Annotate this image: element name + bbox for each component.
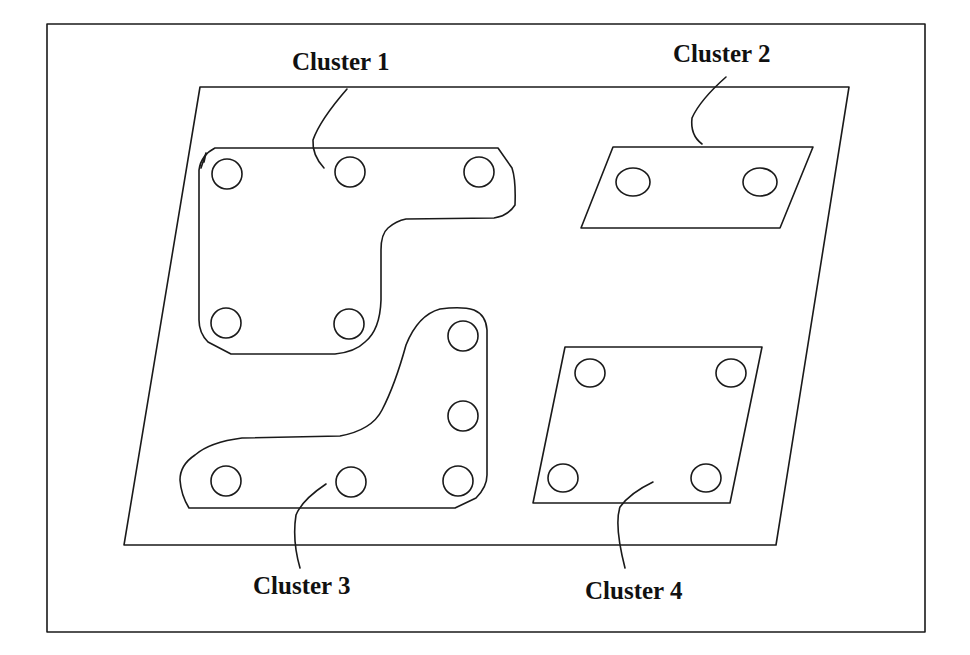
cluster-4-label: Cluster 4 [585,577,683,604]
hole [211,466,241,496]
cluster-1-holes [211,157,494,339]
hole [616,168,650,196]
hole [464,157,494,187]
hole [548,464,578,492]
hole [448,401,478,431]
hole [212,159,242,189]
hole [743,168,777,196]
cluster-4-holes [548,359,746,492]
hole [448,321,478,351]
cluster-3-leader [295,484,326,568]
hole [716,359,746,387]
hole [335,157,365,187]
cluster-2-holes [616,168,777,196]
cluster-3-label: Cluster 3 [253,572,350,599]
cluster-2-label: Cluster 2 [673,40,770,67]
cluster-3-holes [211,321,478,497]
hole [691,464,721,492]
cluster-1-label: Cluster 1 [292,48,389,75]
hole [575,359,605,387]
cluster-1-leader [313,89,347,168]
cluster-4-leader [618,482,653,568]
hole [334,309,364,339]
hole [211,308,241,338]
hole [443,466,473,496]
cluster-diagram: Cluster 1 Cluster 2 Cluster 3 Cluster 4 [0,0,970,655]
outer-frame [47,24,925,632]
hole [336,467,366,497]
cluster-2-region [581,147,813,228]
